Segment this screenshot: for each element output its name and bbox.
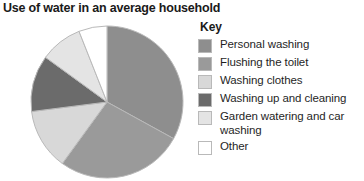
legend-item-label: Other <box>220 140 248 154</box>
pie-slice-group <box>31 26 183 178</box>
legend-item: Garden watering and car washing <box>198 110 364 137</box>
pie-chart <box>28 24 186 181</box>
legend-item: Washing clothes <box>198 74 364 89</box>
legend-item-label: Washing up and cleaning <box>220 92 346 106</box>
legend-item-label: Washing clothes <box>220 74 302 88</box>
legend-item-label: Flushing the toilet <box>220 56 308 70</box>
legend-swatch <box>198 57 212 71</box>
legend-swatch <box>198 93 212 107</box>
legend-item: Flushing the toilet <box>198 56 364 71</box>
pie-chart-svg <box>28 24 186 181</box>
legend-item: Personal washing <box>198 38 364 53</box>
legend-title: Key <box>200 20 364 34</box>
legend-swatch <box>198 75 212 89</box>
legend-swatch <box>198 141 212 155</box>
legend-item: Washing up and cleaning <box>198 92 364 107</box>
legend-item-label: Personal washing <box>220 38 309 52</box>
chart-page: Use of water in an average household Key… <box>0 0 364 181</box>
page-title: Use of water in an average household <box>3 1 220 15</box>
legend-item: Other <box>198 140 364 155</box>
legend-item-label: Garden watering and car washing <box>220 110 364 137</box>
legend-swatch <box>198 39 212 53</box>
legend-items: Personal washingFlushing the toiletWashi… <box>198 38 364 155</box>
legend-swatch <box>198 111 212 125</box>
legend: Key Personal washingFlushing the toiletW… <box>198 20 364 181</box>
